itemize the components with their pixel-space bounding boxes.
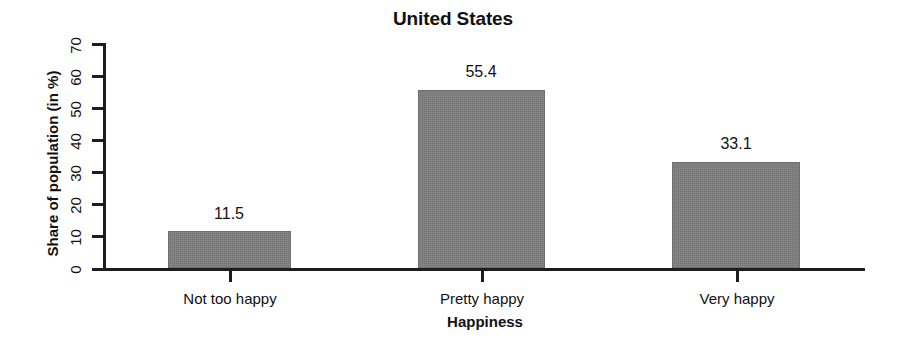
y-axis-line xyxy=(103,43,106,270)
y-tick-mark xyxy=(92,203,103,206)
x-axis-title: Happiness xyxy=(0,313,906,330)
bar-very-happy[interactable] xyxy=(672,162,800,268)
y-tick-label: 60 xyxy=(67,61,84,95)
bar-pretty-happy[interactable] xyxy=(418,90,545,268)
y-tick-mark xyxy=(92,268,103,271)
y-tick-label: 30 xyxy=(67,157,84,191)
y-axis-title: Share of population (in %) xyxy=(44,34,61,294)
x-axis-line xyxy=(103,268,865,271)
bar-chart: United States Share of population (in %)… xyxy=(0,0,906,349)
x-tick-mark xyxy=(229,271,232,282)
x-tick-mark xyxy=(736,271,739,282)
y-tick-label: 10 xyxy=(67,221,84,255)
y-tick-label: 0 xyxy=(67,253,84,287)
y-tick-label: 40 xyxy=(67,125,84,159)
x-tick-mark xyxy=(481,271,484,282)
y-tick-mark xyxy=(92,43,103,46)
bar-value-label: 11.5 xyxy=(214,205,244,223)
y-tick-label: 70 xyxy=(67,29,84,63)
x-tick-label-very-happy: Very happy xyxy=(699,290,774,307)
y-tick-mark xyxy=(92,75,103,78)
x-tick-label-not-too-happy: Not too happy xyxy=(183,290,276,307)
y-tick-mark xyxy=(92,235,103,238)
y-tick-mark xyxy=(92,107,103,110)
x-tick-label-pretty-happy: Pretty happy xyxy=(440,290,524,307)
y-tick-mark xyxy=(92,139,103,142)
bar-not-too-happy[interactable] xyxy=(168,231,291,268)
y-tick-label: 20 xyxy=(67,189,84,223)
y-tick-label: 50 xyxy=(67,93,84,127)
bar-value-label: 33.1 xyxy=(720,135,751,153)
bar-value-label: 55.4 xyxy=(465,63,496,81)
chart-title: United States xyxy=(0,8,906,30)
y-tick-mark xyxy=(92,171,103,174)
